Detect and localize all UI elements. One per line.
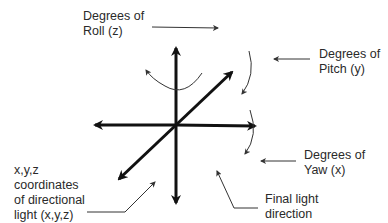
axes (95, 48, 255, 203)
roll-leader-arrow (152, 27, 218, 28)
coordinates-label-line4: light (x,y,z) (14, 208, 85, 223)
roll-label-line1: Degrees of (83, 9, 144, 24)
horizontal-axis-right (176, 125, 255, 126)
final-light-label: Final light direction (265, 192, 319, 222)
coordinates-label-line1: x,y,z (14, 163, 85, 178)
pitch-label-line1: Degrees of (319, 47, 380, 62)
diagonal-axis-downleft (119, 125, 176, 179)
yaw-label-line2: Yaw (x) (304, 163, 365, 178)
pitch-arc-icon (242, 51, 251, 94)
yaw-label-line1: Degrees of (304, 148, 365, 163)
final-light-label-line2: direction (265, 207, 319, 222)
coordinates-leader (87, 182, 155, 212)
final-light-leader (217, 171, 258, 208)
pitch-label-line2: Pitch (y) (319, 62, 380, 77)
coordinates-label: x,y,z coordinates of directional light (… (14, 163, 85, 223)
yaw-arc-icon (245, 110, 254, 154)
coordinates-label-line2: coordinates (14, 178, 85, 193)
diagonal-axis-upright (176, 72, 232, 125)
roll-arc-icon (146, 70, 202, 90)
pitch-label: Degrees of Pitch (y) (319, 47, 380, 77)
roll-label: Degrees of Roll (z) (83, 9, 144, 39)
yaw-label: Degrees of Yaw (x) (304, 148, 365, 178)
final-light-label-line1: Final light (265, 192, 319, 207)
roll-label-line2: Roll (z) (83, 24, 144, 39)
coordinates-label-line3: of directional (14, 193, 85, 208)
leader-lines (87, 27, 310, 212)
